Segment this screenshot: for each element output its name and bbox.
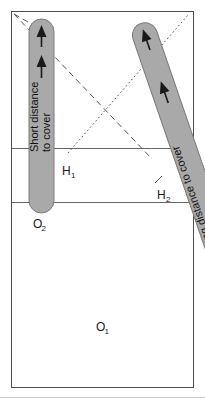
hide-label-h1-letter: H — [62, 164, 71, 178]
hide-label-h1-subscript: 1 — [71, 171, 76, 180]
origin-label-o2-subscript: 2 — [42, 224, 47, 233]
hide-label-h2-letter: H — [157, 188, 166, 202]
origin-label-o1-subscript: 1 — [105, 327, 110, 336]
diagram-canvas: Short distance to cover O 2 Long distanc… — [0, 0, 205, 403]
short-capsule-label-line2: to cover — [40, 113, 52, 152]
short-capsule-label-line1: Short distance — [28, 82, 40, 152]
short-distance-capsule: Short distance to cover — [28, 19, 54, 213]
hide-label-h2-subscript: 2 — [166, 195, 171, 204]
cover-distance-diagram: Short distance to cover O 2 Long distanc… — [0, 0, 205, 403]
